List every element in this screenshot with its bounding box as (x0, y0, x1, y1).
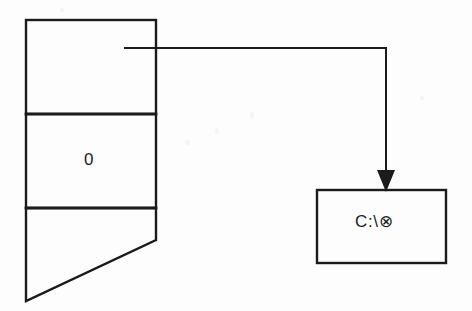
pointer-connector-line (124, 48, 386, 183)
diagram-svg (0, 0, 472, 311)
top-cell-rect (26, 20, 156, 114)
path-value-label: C:\⊗ (355, 211, 393, 232)
bottom-cell-diagonal-shape (26, 208, 156, 301)
middle-cell-value-label: 0 (84, 150, 94, 170)
arrowhead-down-icon (377, 170, 395, 192)
diagram-canvas: 0 C:\⊗ (0, 0, 472, 311)
